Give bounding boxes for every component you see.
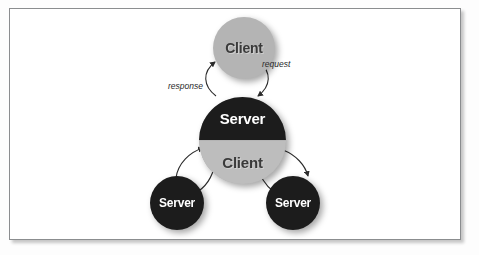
node-middle-tier-server-label: Server bbox=[220, 111, 266, 126]
node-server-left[interactable]: Server bbox=[150, 176, 204, 230]
node-client-top[interactable]: Client bbox=[213, 17, 275, 79]
arrow-response-up bbox=[206, 62, 216, 96]
client-server-diagram: Client Server Client Server Server respo… bbox=[0, 0, 479, 255]
node-middle-tier-client-half: Client bbox=[199, 141, 286, 184]
node-middle-tier[interactable]: Server Client bbox=[199, 97, 286, 184]
node-middle-tier-server-half: Server bbox=[199, 97, 286, 140]
arrow-center-to-server-right bbox=[283, 150, 308, 176]
node-client-top-label: Client bbox=[225, 41, 263, 55]
node-server-right[interactable]: Server bbox=[266, 176, 320, 230]
edge-label-response: response bbox=[168, 81, 203, 91]
node-server-right-label: Server bbox=[275, 197, 311, 209]
figure-canvas: Client Server Client Server Server respo… bbox=[0, 0, 479, 255]
edge-label-request: request bbox=[262, 59, 290, 69]
node-middle-tier-client-label: Client bbox=[222, 155, 262, 170]
node-server-left-label: Server bbox=[159, 197, 195, 209]
